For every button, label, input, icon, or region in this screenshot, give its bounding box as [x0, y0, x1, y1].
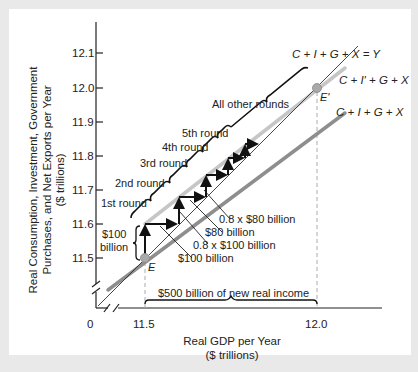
label-round-3: 3rd round [140, 157, 187, 169]
svg-text:0: 0 [87, 318, 93, 330]
svg-text:($ trillions): ($ trillions) [54, 153, 66, 206]
svg-text:11.6: 11.6 [72, 218, 94, 230]
label-point-e-prime: E' [320, 91, 330, 103]
label-equilibrium-line: C + I + G + X = Y [292, 48, 381, 60]
svg-text:($ trillions): ($ trillions) [205, 349, 258, 361]
y-axis-label: Real Consumption, Investment, Government… [27, 66, 66, 294]
svg-text:11.5: 11.5 [133, 318, 155, 330]
svg-text:Real Consumption, Investment,: Real Consumption, Investment, Government [27, 66, 39, 294]
y-tick-labels: 12.1 12.0 11.9 11.8 11.7 11.6 11.5 [72, 47, 94, 264]
round-braces [131, 68, 308, 218]
left-brace-100 [133, 226, 140, 260]
svg-text:11.9: 11.9 [72, 116, 94, 128]
label-round-2: 2nd round [115, 177, 165, 189]
label-other-rounds: All other rounds [212, 98, 290, 110]
svg-text:11.8: 11.8 [72, 150, 94, 162]
x-axis-label: Real GDP per Year ($ trillions) [183, 335, 281, 361]
svg-text:Purchases, and Net Exports per: Purchases, and Net Exports per Year [41, 85, 53, 274]
label-08x100: 0.8 x $100 billion [193, 239, 276, 251]
label-100-bottom: billion [100, 241, 128, 253]
svg-text:11.5: 11.5 [72, 252, 94, 264]
svg-text:11.7: 11.7 [72, 184, 94, 196]
label-new-income: $500 billion of new real income [158, 287, 309, 299]
label-point-e: E [148, 261, 156, 273]
label-80: $80 billion [205, 226, 255, 238]
label-round-1: 1st round [101, 197, 147, 209]
svg-text:12.0: 12.0 [305, 318, 327, 330]
label-round-4: 4th round [162, 141, 208, 153]
label-100: $100 billion [178, 252, 234, 264]
svg-text:Real GDP per Year: Real GDP per Year [183, 335, 281, 347]
label-new-ae: C + I' + G + X [339, 74, 410, 86]
label-08x80: 0.8 x $80 billion [219, 213, 295, 225]
label-old-ae: C + I + G + X [336, 106, 405, 118]
svg-text:12.0: 12.0 [72, 82, 94, 94]
x-tick-labels: 0 11.5 12.0 [87, 318, 327, 330]
label-round-5: 5th round [182, 127, 228, 139]
multiplier-chart: Real Consumption, Investment, Government… [0, 0, 418, 372]
label-100-top: $100 [102, 228, 126, 240]
svg-text:12.1: 12.1 [72, 47, 94, 59]
